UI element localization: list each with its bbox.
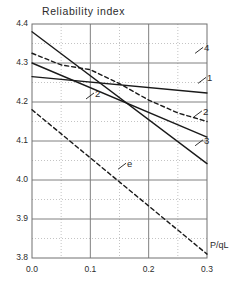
reliability-index-chart: Reliability index 3.83.94.04.14.24.34.4 … <box>0 0 247 293</box>
curve-label-4: 4 <box>204 42 209 53</box>
series-lines <box>32 32 207 254</box>
x-tick-label: 0.3 <box>192 264 222 274</box>
y-tick-label: 3.9 <box>2 213 28 223</box>
x-axis-title: P/qL <box>210 240 229 250</box>
series-line-e <box>32 110 207 254</box>
curve-label-2: 2 <box>203 106 208 117</box>
y-tick-label: 4.3 <box>2 57 28 67</box>
series-line-2 <box>32 63 207 137</box>
y-tick-label: 4.4 <box>2 18 28 28</box>
annotation-leader-lines <box>86 47 206 169</box>
y-tick-label: 4.0 <box>2 174 28 184</box>
chart-title: Reliability index <box>42 5 125 17</box>
y-tick-label: 3.8 <box>2 252 28 262</box>
x-tick-label: 0.1 <box>75 264 105 274</box>
y-tick-label: 4.2 <box>2 96 28 106</box>
y-tick-label: 4.1 <box>2 135 28 145</box>
curve-label-e: e <box>127 158 132 169</box>
x-tick-label: 0.0 <box>17 264 47 274</box>
curve-label-1: 1 <box>207 72 212 83</box>
x-tick-label: 0.2 <box>134 264 164 274</box>
curve-label-3: 3 <box>204 135 209 146</box>
curve-label-2: 2 <box>95 88 100 99</box>
